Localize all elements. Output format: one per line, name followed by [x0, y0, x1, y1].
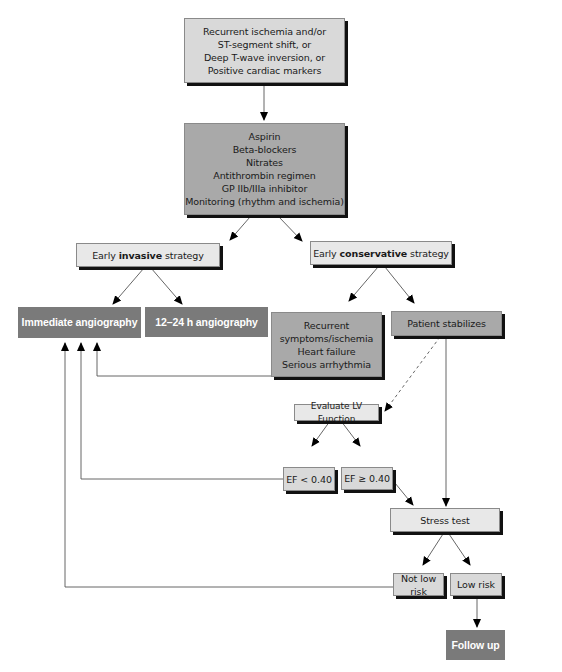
ef-low-label: EF < 0.40 [286, 473, 332, 486]
conservative-bold: conservative [340, 247, 408, 260]
treatment-line-3: Nitrates [246, 156, 283, 169]
delayed-angiography-label: 12–24 h angiography [155, 316, 258, 329]
early-conservative-strategy-box: Early conservative strategy [310, 241, 452, 265]
invasive-prefix: Early [92, 249, 118, 262]
evaluate-lv-label: Evaluate LV Function [295, 400, 378, 426]
evaluate-lv-function-box: Evaluate LV Function [294, 404, 379, 421]
follow-up-label: Follow up [451, 639, 499, 652]
delayed-angiography-box: 12–24 h angiography [145, 307, 268, 337]
not-low-risk-label: Not low risk [394, 572, 443, 598]
flowchart-canvas: Recurrent ischemia and/or ST-segment shi… [0, 0, 562, 672]
treatment-line-4: Antithrombin regimen [213, 169, 315, 182]
conservative-prefix: Early [313, 247, 339, 260]
entry-line-1: Recurrent ischemia and/or [203, 25, 326, 38]
treatment-line-5: GP IIb/IIIa inhibitor [222, 182, 308, 195]
treatment-line-2: Beta-blockers [233, 143, 297, 156]
ef-low-box: EF < 0.40 [283, 467, 335, 491]
recurrent-line-4: Serious arrhythmia [282, 358, 371, 371]
recurrent-line-1: Recurrent [304, 319, 349, 332]
treatment-line-6: Monitoring (rhythm and ischemia) [185, 195, 344, 208]
stress-test-label: Stress test [420, 514, 469, 527]
treatment-box: Aspirin Beta-blockers Nitrates Antithrom… [184, 123, 345, 215]
invasive-suffix: strategy [162, 249, 204, 262]
entry-line-3: Deep T-wave inversion, or [204, 51, 325, 64]
conservative-suffix: strategy [407, 247, 449, 260]
entry-criteria-box: Recurrent ischemia and/or ST-segment shi… [184, 18, 345, 83]
ef-high-box: EF ≥ 0.40 [341, 467, 393, 490]
low-risk-label: Low risk [457, 578, 495, 591]
follow-up-box: Follow up [446, 630, 505, 660]
immediate-angiography-label: Immediate angiography [22, 316, 138, 329]
ef-high-label: EF ≥ 0.40 [344, 472, 390, 485]
patient-stabilizes-label: Patient stabilizes [407, 317, 486, 330]
low-risk-box: Low risk [450, 573, 502, 596]
not-low-risk-box: Not low risk [393, 573, 444, 596]
early-invasive-strategy-box: Early invasive strategy [76, 243, 220, 267]
recurrent-line-3: Heart failure [297, 345, 355, 358]
patient-stabilizes-box: Patient stabilizes [391, 311, 502, 336]
treatment-line-1: Aspirin [249, 130, 281, 143]
entry-line-2: ST-segment shift, or [218, 38, 311, 51]
recurrent-line-2: symptoms/ischemia [280, 332, 374, 345]
invasive-bold: invasive [119, 249, 162, 262]
immediate-angiography-box: Immediate angiography [18, 307, 141, 338]
stress-test-box: Stress test [390, 508, 500, 532]
entry-line-4: Positive cardiac markers [208, 64, 322, 77]
recurrent-symptoms-box: Recurrent symptoms/ischemia Heart failur… [271, 312, 382, 377]
